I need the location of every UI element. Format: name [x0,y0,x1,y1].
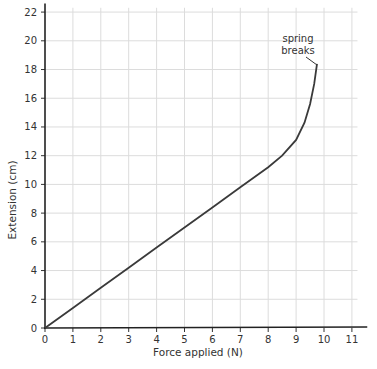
spring-breaks-annotation: spring breaks [281,33,317,65]
y-tick-label: 0 [31,323,37,334]
y-tick-label: 20 [24,35,37,46]
x-tick-label: 6 [209,334,215,345]
annotation-line2: breaks [281,45,315,56]
x-tick-label: 9 [293,334,299,345]
x-axis [44,327,367,328]
y-tick-label: 4 [31,265,37,276]
annotation-leader [306,57,317,65]
x-tick-label: 1 [70,334,76,345]
y-tick-label: 18 [24,64,37,75]
x-tick-label: 3 [126,334,132,345]
data-line [45,64,317,328]
tick-labels: 012345678910110246810121416182022 [24,7,358,345]
x-tick-label: 4 [153,334,159,345]
y-tick-label: 22 [24,7,37,18]
x-tick-label: 11 [346,334,359,345]
x-tick-label: 0 [42,334,48,345]
y-tick-label: 14 [24,121,37,132]
y-tick-label: 2 [31,294,37,305]
y-tick-label: 8 [31,208,37,219]
annotation-line1: spring [282,33,313,44]
x-tick-label: 2 [98,334,104,345]
y-tick-label: 10 [24,179,37,190]
y-tick-label: 12 [24,150,37,161]
y-tick-label: 6 [31,236,37,247]
x-tick-label: 7 [237,334,243,345]
y-axis-label: Extension (cm) [6,160,18,239]
x-tick-label: 5 [181,334,187,345]
x-tick-label: 8 [265,334,271,345]
axes [41,3,367,332]
x-axis-label: Force applied (N) [153,346,243,358]
x-tick-label: 10 [318,334,331,345]
y-tick-label: 16 [24,93,37,104]
extension-force-chart: 012345678910110246810121416182022 spring… [0,0,377,369]
